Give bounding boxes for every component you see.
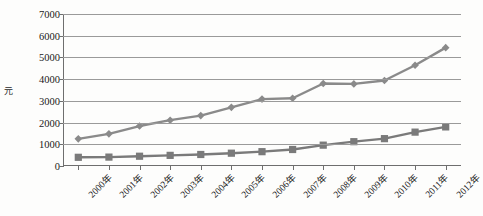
series-square-marker [167,152,174,159]
series-diamond-marker [228,104,236,112]
series-square-marker [197,151,204,158]
series-square-marker [442,123,449,130]
series-square-marker [411,129,418,136]
y-tick-mark [59,144,63,145]
series-square-marker [75,154,82,161]
y-axis-tick-7000: 7000 [16,9,60,20]
series-diamond-marker [350,80,358,88]
y-axis-tick-1000: 1000 [16,139,60,150]
x-axis-tick-2011年: 2011年 [421,170,451,200]
y-axis-tick-4000: 4000 [16,74,60,85]
y-axis-tick-2000: 2000 [16,117,60,128]
x-axis-tick-2006年: 2006年 [268,170,298,200]
y-axis-tick-5000: 5000 [16,52,60,63]
y-axis-tick-3000: 3000 [16,95,60,106]
gridline [63,14,461,15]
x-axis-tick-2012年: 2012年 [452,170,482,200]
y-tick-mark [59,14,63,15]
series-diamond-line [78,48,445,139]
y-tick-mark [59,57,63,58]
y-tick-mark [59,79,63,80]
y-axis-tick-0: 0 [16,161,60,172]
x-axis-tick-2008年: 2008年 [330,170,360,200]
series-diamond-marker [75,135,83,143]
series-layer [63,14,461,166]
series-square-marker [228,150,235,157]
series-diamond-marker [197,112,205,120]
gridline [63,101,461,102]
y-tick-mark [59,36,63,37]
series-diamond-marker [319,80,327,88]
gridline [63,57,461,58]
gridline [63,36,461,37]
plot-area [63,14,461,166]
x-axis-tick-2002年: 2002年 [146,170,176,200]
y-tick-mark [59,123,63,124]
x-axis-tick-2000年: 2000年 [85,170,115,200]
x-axis-tick-2004年: 2004年 [207,170,237,200]
series-square-marker [381,135,388,142]
gridline [63,79,461,80]
series-square-marker [105,154,112,161]
gridline [63,123,461,124]
series-diamond [75,44,450,143]
y-axis-tick-6000: 6000 [16,30,60,41]
series-diamond-marker [105,130,113,138]
x-axis-tick-labels: 2000年2001年2002年2003年2004年2005年2006年2007年… [63,170,461,216]
x-axis-tick-2005年: 2005年 [238,170,268,200]
gridline [63,144,461,145]
x-axis-tick-2007年: 2007年 [299,170,329,200]
x-axis-tick-2010年: 2010年 [391,170,421,200]
series-square-marker [258,148,265,155]
y-tick-mark [59,166,63,167]
y-axis-tick-labels: 01000200030004000500060007000 [12,0,60,216]
x-axis-tick-2009年: 2009年 [360,170,390,200]
y-tick-mark [59,101,63,102]
series-square-marker [136,153,143,160]
series-square-marker [289,146,296,153]
x-axis-tick-2001年: 2001年 [115,170,145,200]
x-axis-tick-2003年: 2003年 [177,170,207,200]
